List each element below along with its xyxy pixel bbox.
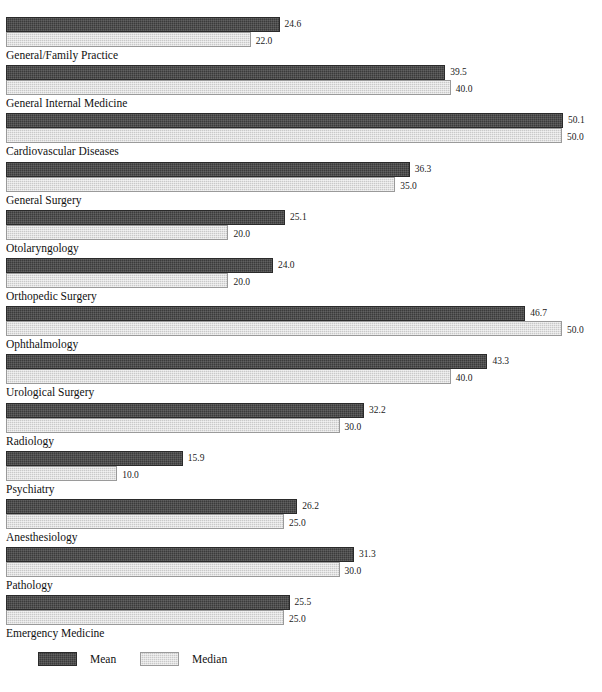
bar-value-label-mean: 24.6 <box>285 19 302 30</box>
category-axis-label: General Internal Medicine <box>6 96 127 111</box>
chart-category-row: 25.120.0Otolaryngology <box>0 210 602 258</box>
chart-category-row: 46.750.0Ophthalmology <box>0 306 602 354</box>
category-axis-label: General Surgery <box>6 193 81 208</box>
chart-category-row: 31.330.0Pathology <box>0 547 602 595</box>
bar-value-label-mean: 50.1 <box>568 115 585 126</box>
bar-value-label-median: 40.0 <box>456 373 473 384</box>
bar-group: 24.622.0 <box>6 17 596 48</box>
bar-median <box>6 128 562 143</box>
bar-value-label-median: 35.0 <box>400 181 417 192</box>
bar-group: 36.335.0 <box>6 162 596 193</box>
bar-group: 39.540.0 <box>6 65 596 96</box>
chart-category-row: 36.335.0General Surgery <box>0 162 602 210</box>
bar-median <box>6 80 451 95</box>
bar-median <box>6 466 117 481</box>
bar-group: 26.225.0 <box>6 499 596 530</box>
category-axis-label: Urological Surgery <box>6 385 94 400</box>
bar-value-label-median: 25.0 <box>289 518 306 529</box>
bar-chart: 24.622.0General/Family Practice39.540.0G… <box>0 0 602 692</box>
bar-group: 25.525.0 <box>6 595 596 626</box>
bar-value-label-median: 22.0 <box>256 36 273 47</box>
category-axis-label: Orthopedic Surgery <box>6 289 97 304</box>
bar-mean <box>6 547 354 562</box>
bar-value-label-median: 50.0 <box>567 325 584 336</box>
bar-value-label-median: 20.0 <box>233 277 250 288</box>
bar-median <box>6 273 228 288</box>
legend-label: Median <box>192 651 227 667</box>
bar-median <box>6 562 340 577</box>
bar-median <box>6 610 284 625</box>
chart-category-row: 25.525.0Emergency Medicine <box>0 595 602 643</box>
category-axis-label: Emergency Medicine <box>6 626 104 641</box>
bar-value-label-mean: 15.9 <box>188 453 205 464</box>
bar-group: 46.750.0 <box>6 306 596 337</box>
bar-group: 15.910.0 <box>6 451 596 482</box>
category-axis-label: Otolaryngology <box>6 241 79 256</box>
chart-category-row: 15.910.0Psychiatry <box>0 451 602 499</box>
bar-median <box>6 514 284 529</box>
bar-median <box>6 32 251 47</box>
chart-category-row: 24.020.0Orthopedic Surgery <box>0 258 602 306</box>
chart-category-row: 24.622.0General/Family Practice <box>0 17 602 65</box>
chart-plot-area: 24.622.0General/Family Practice39.540.0G… <box>0 0 602 636</box>
chart-category-row: 32.230.0Radiology <box>0 403 602 451</box>
bar-mean <box>6 499 297 514</box>
category-axis-label: Psychiatry <box>6 482 55 497</box>
bar-value-label-mean: 26.2 <box>302 501 319 512</box>
chart-legend: MeanMedian <box>0 650 602 680</box>
bar-value-label-median: 10.0 <box>122 470 139 481</box>
bar-value-label-mean: 39.5 <box>450 67 467 78</box>
bar-mean <box>6 65 445 80</box>
chart-category-row: 39.540.0General Internal Medicine <box>0 65 602 113</box>
category-axis-label: Radiology <box>6 434 54 449</box>
legend-label: Mean <box>90 651 116 667</box>
bar-mean <box>6 210 285 225</box>
bar-group: 32.230.0 <box>6 403 596 434</box>
bar-group: 31.330.0 <box>6 547 596 578</box>
bar-median <box>6 321 562 336</box>
bar-value-label-median: 30.0 <box>345 422 362 433</box>
bar-value-label-mean: 25.1 <box>290 212 307 223</box>
legend-swatch-icon <box>140 652 179 666</box>
bar-group: 25.120.0 <box>6 210 596 241</box>
bar-value-label-median: 25.0 <box>289 614 306 625</box>
bar-value-label-median: 30.0 <box>345 566 362 577</box>
category-axis-label: General/Family Practice <box>6 48 118 63</box>
bar-mean <box>6 113 563 128</box>
bar-median <box>6 369 451 384</box>
bar-mean <box>6 17 280 32</box>
chart-category-row: 43.340.0Urological Surgery <box>0 354 602 402</box>
bar-mean <box>6 258 273 273</box>
bar-mean <box>6 354 487 369</box>
bar-value-label-median: 40.0 <box>456 84 473 95</box>
chart-category-row: 26.225.0Anesthesiology <box>0 499 602 547</box>
bar-value-label-mean: 31.3 <box>359 549 376 560</box>
legend-swatch-icon <box>38 652 77 666</box>
bar-median <box>6 225 228 240</box>
category-axis-label: Anesthesiology <box>6 530 78 545</box>
bar-value-label-mean: 32.2 <box>369 405 386 416</box>
bar-mean <box>6 595 290 610</box>
bar-value-label-median: 50.0 <box>567 132 584 143</box>
category-axis-label: Cardiovascular Diseases <box>6 144 119 159</box>
category-axis-label: Pathology <box>6 578 53 593</box>
bar-median <box>6 177 395 192</box>
bar-value-label-mean: 36.3 <box>415 164 432 175</box>
category-axis-label: Ophthalmology <box>6 337 78 352</box>
bar-value-label-mean: 43.3 <box>492 356 509 367</box>
bar-value-label-mean: 24.0 <box>278 260 295 271</box>
bar-mean <box>6 451 183 466</box>
bar-median <box>6 418 340 433</box>
bar-group: 43.340.0 <box>6 354 596 385</box>
bar-value-label-mean: 25.5 <box>295 597 312 608</box>
bar-mean <box>6 162 410 177</box>
bar-mean <box>6 403 364 418</box>
chart-category-row: 50.150.0Cardiovascular Diseases <box>0 113 602 161</box>
bar-value-label-median: 20.0 <box>233 229 250 240</box>
bar-group: 24.020.0 <box>6 258 596 289</box>
bar-group: 50.150.0 <box>6 113 596 144</box>
bar-mean <box>6 306 525 321</box>
bar-value-label-mean: 46.7 <box>530 308 547 319</box>
